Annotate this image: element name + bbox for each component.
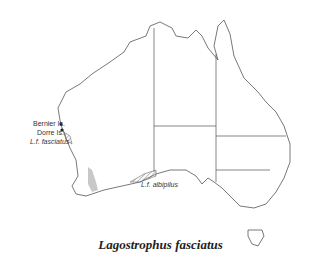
state-borders (154, 28, 286, 182)
label-fasciatus: L.f. fasciatus (30, 138, 69, 145)
label-dorre-island: Dorre Is. (37, 129, 64, 136)
southwest-range (88, 167, 98, 192)
map-title: Lagostrophus fasciatus (0, 237, 321, 253)
label-albipilus: L.f. albipilus (141, 181, 178, 188)
label-bernier-island: Bernier Is. (33, 120, 65, 127)
